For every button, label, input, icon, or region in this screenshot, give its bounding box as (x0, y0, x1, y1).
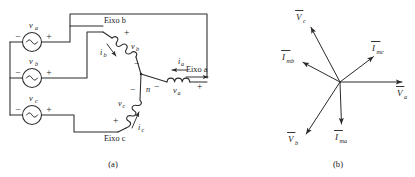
source-vc-minus: − (15, 105, 20, 115)
phasor-Vb-sub: b (295, 139, 298, 146)
source-va-minus: − (15, 32, 20, 42)
coil-vc-group: + − v c i c (113, 74, 145, 133)
axis-b-label: Eixo b (104, 16, 126, 25)
coil-va-group: n − + v a i a (140, 57, 207, 96)
caption-b: (b) (333, 159, 343, 169)
phasor-Va-symbol: V (397, 88, 404, 98)
figure-svg: − + v a − + v b − + v c (0, 0, 415, 177)
coil-vb-group: + − v b i b (100, 28, 141, 74)
current-ic-sub: c (142, 127, 145, 133)
coil-vb-sub: b (136, 46, 139, 52)
phasor-Va-group: V a (340, 82, 407, 100)
source-va-label: v (29, 21, 33, 30)
phasor-Vc-sub: c (303, 17, 306, 24)
source-vb-plus: + (46, 68, 51, 78)
phasor-Vb-group: V b (288, 82, 341, 146)
phasor-Imb-sub: mb (287, 57, 295, 64)
caption-a: (a) (108, 159, 118, 169)
phasor-Vc-group: V c (296, 11, 341, 83)
current-ia-sub: a (181, 61, 184, 67)
coil-va-plus: + (197, 82, 202, 92)
phasor-Imc-sub: mc (377, 48, 384, 55)
phasor-Imb-symbol: I (281, 52, 286, 62)
coil-vc-minus: − (130, 85, 135, 95)
source-vb-sub: b (35, 61, 38, 67)
source-va-sub: a (35, 25, 38, 31)
source-vc-label: v (29, 94, 33, 103)
wire-neutral-to-coil-a (141, 74, 167, 82)
phasor-Vc-symbol: V (296, 12, 303, 22)
neutral-node-label: n (146, 85, 150, 94)
phasor-Ima-group: I ma (334, 82, 347, 144)
coil-vb-plus: + (124, 28, 129, 38)
coil-va-sub: a (178, 90, 181, 96)
current-ib-sub: b (104, 52, 107, 58)
phasor-Vb-arrow (306, 82, 340, 134)
source-vc-group: − + v c (10, 94, 118, 132)
panel-b-phasors: V a V b V c I ma I mb (281, 11, 407, 170)
neutral-node-dot (140, 73, 143, 76)
coil-vb-minus: − (134, 59, 139, 69)
source-va-plus: + (46, 32, 51, 42)
coil-va-minus: − (154, 82, 159, 92)
source-vc-sub: c (35, 98, 38, 104)
source-vc-sine-icon (27, 113, 38, 117)
wire-coil-c-out (140, 74, 141, 100)
current-ib-arrow (107, 44, 116, 56)
coil-vc-plus: + (113, 116, 118, 126)
phasor-Ima-symbol: I (334, 132, 339, 142)
figure-root: − + v a − + v b − + v c (0, 0, 415, 177)
coil-va-label: v (173, 86, 177, 95)
phasor-Imc-arrow (340, 57, 374, 82)
axis-a-label: Eixo a (186, 65, 208, 74)
phasor-Ima-arrow (340, 82, 342, 124)
panel-a-circuit: − + v a − + v b − + v c (10, 14, 208, 169)
wire-coil-b-in (103, 32, 112, 38)
coil-vc-sub: c (123, 103, 126, 109)
source-vb-minus: − (15, 68, 20, 78)
phasor-Imc-group: I mc (340, 42, 384, 83)
source-vb-label: v (29, 57, 33, 66)
source-vb-group: − + v b (10, 32, 103, 88)
phasor-Ima-sub: ma (340, 137, 348, 144)
coil-vb-label: v (131, 42, 135, 51)
axis-c-label: Eixo c (104, 134, 126, 143)
source-vc-plus: + (46, 105, 51, 115)
coil-va-winding (167, 78, 190, 82)
phasor-Vb-symbol: V (288, 134, 295, 144)
phasor-Imc-symbol: I (371, 43, 376, 53)
coil-vc-label: v (118, 99, 122, 108)
source-va-group: − + v a (10, 21, 103, 52)
axis-a-group: Eixo a (186, 65, 208, 77)
phasor-Va-sub: a (404, 93, 407, 100)
wire-coil-c-in (118, 128, 126, 132)
wire-vc-right (42, 115, 119, 132)
source-vb-sine-icon (27, 76, 38, 80)
source-va-sine-icon (27, 40, 38, 44)
